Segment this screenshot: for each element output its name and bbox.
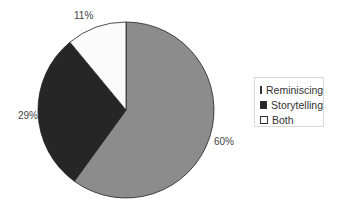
slice-label-reminiscing: 60% xyxy=(214,136,234,147)
chart-legend: Reminiscing Storytelling Both xyxy=(254,77,324,127)
legend-item-storytelling: Storytelling xyxy=(260,97,323,112)
slice-label-both: 11% xyxy=(74,10,93,21)
slice-label-storytelling: 29% xyxy=(18,110,38,121)
legend-item-reminiscing: Reminiscing xyxy=(260,82,323,97)
legend-swatch-both xyxy=(260,116,268,124)
legend-swatch-reminiscing xyxy=(260,86,262,94)
legend-item-both: Both xyxy=(260,112,323,127)
legend-label: Both xyxy=(272,114,294,126)
legend-label: Reminiscing xyxy=(266,84,323,96)
pie-chart xyxy=(0,0,240,208)
legend-label: Storytelling xyxy=(271,99,323,111)
legend-swatch-storytelling xyxy=(260,101,267,109)
